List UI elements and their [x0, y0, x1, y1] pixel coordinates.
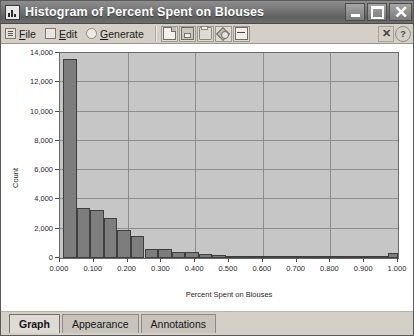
histogram-bar: [117, 230, 131, 258]
y-tick-label: 6,000: [34, 165, 53, 174]
x-tick-label: 0.400: [185, 264, 204, 273]
y-tick-mark: [55, 169, 59, 170]
histogram-bar: [347, 256, 361, 258]
title-bar[interactable]: Histogram of Percent Spent on Blouses ✕: [1, 1, 413, 24]
x-tick-label: 0.300: [151, 264, 170, 273]
grid-line-vertical: [263, 53, 264, 258]
printer-icon: [199, 27, 212, 40]
x-tick-mark: [160, 258, 161, 262]
toolbar-separator: [155, 26, 157, 41]
file-menu-icon: [5, 28, 16, 39]
application-window: Histogram of Percent Spent on Blouses ✕ …: [0, 0, 414, 336]
grid-line-horizontal: [60, 81, 398, 82]
histogram-bar: [320, 256, 334, 258]
x-tick-mark: [262, 258, 263, 262]
x-tick-mark: [93, 258, 94, 262]
histogram-bar: [104, 218, 118, 258]
chart-canvas: Count Percent Spent on Blouses 02,0004,0…: [1, 44, 413, 312]
y-tick-label: 0: [49, 253, 53, 262]
histogram-bar: [90, 210, 104, 258]
histogram-bar: [280, 256, 294, 258]
y-tick-mark: [55, 228, 59, 229]
generate-menu-icon: [86, 28, 97, 39]
y-tick-label: 2,000: [34, 223, 53, 232]
menu-edit-label: Edit: [59, 28, 77, 40]
question-mark-icon: ?: [400, 29, 406, 39]
new-page-button[interactable]: [161, 26, 178, 42]
tab-graph[interactable]: Graph: [9, 314, 60, 333]
x-tick-label: 0.100: [83, 264, 102, 273]
page-icon: [163, 27, 176, 40]
x-tick-label: 1.000: [388, 264, 407, 273]
plot-area: [59, 52, 399, 259]
grid-line-vertical: [128, 53, 129, 258]
x-tick-mark: [59, 258, 60, 262]
histogram-bar: [212, 255, 226, 258]
tab-appearance[interactable]: Appearance: [62, 314, 139, 333]
close-x-icon: ✕: [382, 27, 391, 40]
grid-line-vertical: [195, 53, 196, 258]
y-tick-mark: [55, 111, 59, 112]
histogram-bar: [77, 208, 91, 258]
grid-line-horizontal: [60, 169, 398, 170]
histogram-bar: [199, 254, 213, 258]
x-tick-label: 0.000: [50, 264, 69, 273]
y-tick-mark: [55, 52, 59, 53]
x-tick-mark: [329, 258, 330, 262]
help-button[interactable]: ?: [395, 26, 411, 42]
properties-button[interactable]: [215, 26, 232, 42]
tag-icon: [218, 28, 229, 39]
histogram-bar: [374, 256, 388, 258]
x-tick-label: 0.600: [252, 264, 271, 273]
x-tick-label: 0.500: [219, 264, 238, 273]
histogram-icon: [5, 5, 20, 20]
x-tick-mark: [194, 258, 195, 262]
x-tick-label: 0.200: [117, 264, 136, 273]
save-button[interactable]: [179, 26, 196, 42]
x-tick-mark: [127, 258, 128, 262]
histogram-bar: [307, 256, 321, 258]
close-view-button[interactable]: ✕: [378, 26, 394, 42]
y-tick-label: 8,000: [34, 135, 53, 144]
edit-menu-icon: [45, 28, 56, 39]
print-button[interactable]: [197, 26, 214, 42]
x-tick-label: 0.700: [286, 264, 305, 273]
y-tick-mark: [55, 81, 59, 82]
fit-width-button[interactable]: [233, 26, 250, 42]
x-axis-label: Percent Spent on Blouses: [59, 290, 399, 299]
menu-edit[interactable]: Edit: [43, 27, 82, 41]
maximize-button[interactable]: [367, 3, 387, 21]
histogram-bar: [334, 256, 348, 258]
menu-file-label: File: [19, 28, 36, 40]
histogram-bar: [239, 256, 253, 258]
y-tick-mark: [55, 198, 59, 199]
histogram-bar: [185, 252, 199, 258]
tab-annotations[interactable]: Annotations: [141, 314, 216, 333]
histogram-bar: [172, 252, 186, 258]
y-tick-mark: [55, 140, 59, 141]
window-title: Histogram of Percent Spent on Blouses: [25, 5, 343, 19]
grid-line-horizontal: [60, 198, 398, 199]
x-tick-mark: [397, 258, 398, 262]
histogram-bar: [253, 256, 267, 258]
menu-generate-label: Generate: [100, 28, 144, 40]
close-icon: ✕: [394, 4, 408, 21]
close-button[interactable]: ✕: [389, 3, 412, 21]
histogram-bar: [158, 249, 172, 258]
minimize-button[interactable]: [345, 3, 365, 21]
toolbar: File Edit Generate ✕ ?: [1, 24, 413, 44]
x-tick-label: 0.800: [320, 264, 339, 273]
x-tick-label: 0.900: [354, 264, 373, 273]
y-axis-label: Count: [11, 167, 20, 187]
x-tick-mark: [296, 258, 297, 262]
menu-file[interactable]: File: [3, 27, 41, 41]
menu-generate[interactable]: Generate: [84, 27, 149, 41]
y-tick-label: 4,000: [34, 194, 53, 203]
disk-icon: [181, 27, 194, 40]
toolbar-right-group: ✕ ?: [377, 26, 411, 42]
y-tick-label: 14,000: [30, 48, 53, 57]
tab-bar: Graph Appearance Annotations: [1, 312, 413, 335]
x-tick-mark: [228, 258, 229, 262]
grid-line-horizontal: [60, 140, 398, 141]
y-tick-label: 10,000: [30, 106, 53, 115]
